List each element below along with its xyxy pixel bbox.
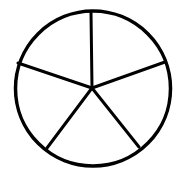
spoke-line-5 <box>18 63 92 88</box>
spoke-line-2 <box>92 62 165 88</box>
spoke-line-1 <box>91 12 92 88</box>
spoke-line-4 <box>47 88 92 148</box>
spoke-line-3 <box>92 88 139 147</box>
pie-divided-circle-diagram <box>0 0 179 173</box>
